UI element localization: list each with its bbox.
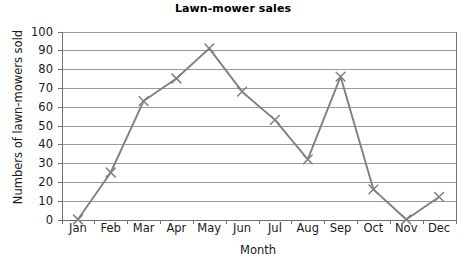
gridlines xyxy=(62,33,456,221)
data-point-marker xyxy=(271,115,280,124)
y-axis-tick-marks xyxy=(58,33,62,221)
data-point-marker xyxy=(205,44,214,53)
data-point-marker xyxy=(402,215,411,224)
plot-area xyxy=(0,0,466,266)
data-series-line xyxy=(78,48,439,219)
data-point-marker xyxy=(74,215,83,224)
data-point-marker xyxy=(106,168,115,177)
data-point-marker xyxy=(303,155,312,164)
data-point-marker xyxy=(139,97,148,106)
data-point-marker xyxy=(435,193,444,202)
lawn-mower-sales-chart: Lawn-mower sales Numbers of lawn-mowers … xyxy=(0,0,466,266)
data-point-marker xyxy=(172,74,181,83)
